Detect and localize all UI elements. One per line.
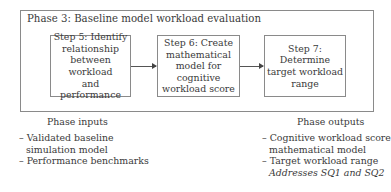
step-5-line: Step 5: Identify — [51, 31, 130, 43]
phase-inputs-list: – Validated baseline simulation model – … — [19, 132, 149, 167]
input-item: – Performance benchmarks — [19, 155, 149, 167]
step-7-box: Step 7: Determine target workload range — [264, 35, 346, 97]
output-item-line: – Cognitive workload score — [262, 132, 391, 143]
input-item: – Validated baseline simulation model — [19, 132, 149, 155]
step-5-line: and performance — [51, 78, 130, 101]
step-5-line: relationship — [51, 43, 130, 55]
arrow-step6-to-step7-icon — [240, 66, 263, 67]
phase-outputs-list: – Cognitive workload score mathematical … — [262, 132, 391, 178]
addresses-note: Addresses SQ1 and SQ2 — [262, 167, 391, 179]
step-6-line: Step 6: Create — [158, 37, 239, 49]
step-6-box: Step 6: Create mathematical model for co… — [157, 35, 240, 97]
phase-title: Phase 3: Baseline model workload evaluat… — [27, 13, 261, 24]
output-item-line: mathematical model — [269, 144, 366, 155]
arrow-step5-to-step6-icon — [131, 66, 156, 67]
phase-inputs-heading: Phase inputs — [47, 116, 108, 127]
step-6-line: workload score — [158, 83, 239, 95]
step-5-line: between workload — [51, 54, 130, 77]
input-item-line: – Performance benchmarks — [19, 155, 149, 166]
input-item-line: simulation model — [26, 144, 108, 155]
output-item: – Cognitive workload score mathematical … — [262, 132, 391, 155]
input-item-line: – Validated baseline — [19, 132, 114, 143]
step-6-line: mathematical — [158, 49, 239, 61]
output-item: – Target workload range — [262, 155, 391, 167]
output-item-line: – Target workload range — [262, 155, 378, 166]
step-7-line: target workload — [265, 66, 345, 78]
step-6-line: model for cognitive — [158, 60, 239, 83]
step-5-box: Step 5: Identify relationship between wo… — [50, 35, 131, 97]
step-7-line: Step 7: Determine — [265, 43, 345, 66]
step-7-line: range — [265, 78, 345, 90]
phase-outputs-heading: Phase outputs — [297, 116, 364, 127]
